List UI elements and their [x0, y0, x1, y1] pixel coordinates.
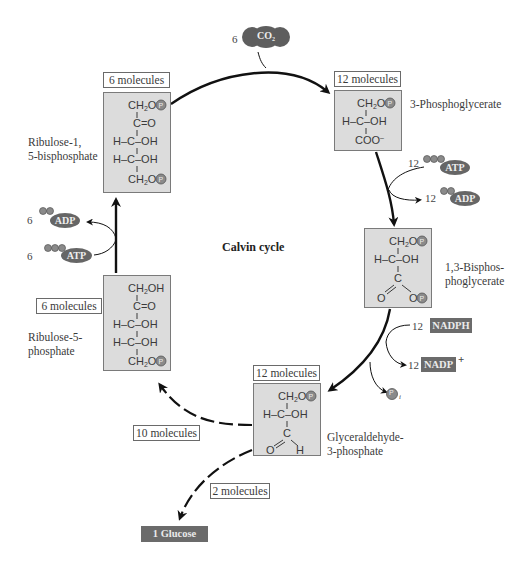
pga-count-label: 12 molecules	[334, 71, 401, 87]
svg-text:H–C–OH: H–C–OH	[263, 408, 308, 420]
atp-right-count: 12	[408, 157, 419, 169]
svg-text:P: P	[388, 100, 393, 107]
svg-text:H–C–OH: H–C–OH	[113, 318, 158, 330]
svg-text:H: H	[296, 444, 304, 456]
g3p-name-line1: Glyceraldehyde-	[327, 430, 404, 444]
g3p-name-line2: 3-phosphate	[327, 444, 383, 458]
nadph-count: 12	[412, 320, 423, 332]
svg-text:CH2O: CH2O	[278, 390, 307, 403]
adp-right-count: 12	[425, 192, 436, 204]
svg-text:CH2O: CH2O	[389, 235, 418, 248]
rubp-name-line2: 5-bisphosphate	[28, 149, 98, 163]
adp-left-count: 6	[27, 214, 33, 226]
atp-right-badge: ATP	[440, 160, 470, 175]
svg-text:H–C–OH: H–C–OH	[113, 135, 158, 147]
bpg-name-line2: phoglycerate	[445, 274, 504, 288]
rubp-name-line1: Ribulose-1,	[28, 135, 81, 149]
svg-text:P: P	[159, 176, 164, 183]
atp-left-count: 6	[27, 250, 33, 262]
export-count-label: 2 molecules	[210, 483, 270, 499]
svg-text:CH2O: CH2O	[357, 97, 386, 110]
svg-text:CH2O: CH2O	[128, 173, 157, 186]
nadp-plus-sign: +	[458, 353, 464, 365]
svg-text:O: O	[377, 292, 386, 304]
svg-text:C: C	[394, 272, 402, 284]
svg-text:H–C–OH: H–C–OH	[374, 253, 419, 265]
svg-text:COO–: COO–	[355, 134, 384, 146]
svg-text:H–C–OH: H–C–OH	[342, 115, 387, 127]
svg-text:C: C	[283, 427, 291, 439]
adp-right-badge: ADP	[450, 191, 480, 206]
svg-text:CH2O: CH2O	[128, 99, 157, 112]
svg-text:P: P	[420, 295, 425, 302]
svg-text:CH2OH: CH2OH	[128, 282, 164, 295]
svg-text:P: P	[309, 393, 314, 400]
bpg-name-line1: 1,3-Bisphos-	[445, 260, 504, 274]
bpg-structure: CH2O P H–C–OH C O O P	[364, 228, 432, 308]
svg-text:H–C–OH: H–C–OH	[113, 153, 158, 165]
svg-text:H–C–OH: H–C–OH	[113, 336, 158, 348]
svg-text:P: P	[420, 238, 425, 245]
pi-label: P	[389, 389, 394, 396]
svg-text:P: P	[159, 358, 164, 365]
ru5p-count-label: 6 molecules	[36, 298, 102, 314]
svg-text:CH2O: CH2O	[128, 355, 157, 368]
adp-left-badge: ADP	[50, 213, 80, 228]
nadph-badge: NADPH	[430, 318, 472, 333]
co2-count: 6	[232, 33, 238, 45]
rubp-count-label: 6 molecules	[103, 72, 170, 88]
recycle-count-label: 10 molecules	[133, 425, 200, 441]
nadp-count: 12	[408, 359, 419, 371]
svg-text:C=O: C=O	[133, 117, 156, 129]
atp-left-badge: ATP	[61, 248, 92, 263]
co2-label: CO₂	[250, 30, 282, 41]
glucose-product-badge: 1 Glucose	[141, 526, 208, 542]
pga-name: 3-Phosphoglycerate	[410, 97, 501, 111]
ru5p-name-line1: Ribulose-5-	[28, 330, 82, 344]
pga-structure: CH2O P H–C–OH COO–	[334, 90, 402, 151]
svg-text:C=O: C=O	[133, 300, 156, 312]
rubp-structure: CH2O P C=O H–C–OH H–C–OH CH2O P	[103, 92, 171, 193]
pi-subscript: i	[399, 393, 401, 401]
ru5p-structure: CH2OH C=O H–C–OH H–C–OH CH2O P	[103, 275, 171, 371]
cycle-title: Calvin cycle	[222, 240, 284, 255]
g3p-structure: CH2O P H–C–OH C O H	[253, 383, 321, 456]
nadp-badge: NADP	[421, 357, 456, 372]
svg-text:P: P	[159, 102, 164, 109]
g3p-count-label: 12 molecules	[253, 365, 320, 381]
svg-text:O: O	[266, 444, 275, 456]
ru5p-name-line2: phosphate	[28, 344, 75, 358]
